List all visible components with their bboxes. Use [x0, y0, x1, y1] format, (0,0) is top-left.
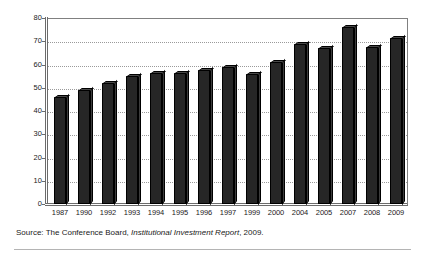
bar-side-face: [258, 71, 261, 205]
x-tick-label-2008: 2008: [360, 208, 384, 218]
bar-side-face: [306, 40, 309, 205]
bar-2008: [366, 18, 378, 204]
bar-body: [78, 90, 90, 204]
x-tick-label-2007: 2007: [336, 208, 360, 218]
source-report-title: Institutional Investment Report: [131, 228, 239, 237]
bar-1992: [102, 18, 114, 204]
bar-side-face: [210, 67, 213, 205]
x-tick-label-1987: 1987: [48, 208, 72, 218]
x-axis-labels: 1987199019921993199419951996199719992000…: [48, 208, 408, 220]
source-note: Source: The Conference Board, Institutio…: [16, 228, 264, 237]
y-tick-label-70: 70: [18, 37, 42, 45]
y-tick-label-0: 0: [18, 200, 42, 208]
bar-side-face: [186, 69, 189, 205]
bar-2000: [270, 18, 282, 204]
x-tick-label-1992: 1992: [96, 208, 120, 218]
y-tick-label-30: 30: [18, 130, 42, 138]
x-tick-label-1996: 1996: [192, 208, 216, 218]
bar-1999: [246, 18, 258, 204]
x-tick-label-2005: 2005: [312, 208, 336, 218]
bar-1996: [198, 18, 210, 204]
bar-body: [54, 97, 66, 204]
y-tick-label-40: 40: [18, 107, 42, 115]
bar-1997: [222, 18, 234, 204]
footer-divider: [14, 249, 411, 250]
bar-side-face: [330, 45, 333, 205]
bar-series: [48, 18, 408, 204]
bar-1995: [174, 18, 186, 204]
bar-side-face: [354, 24, 357, 205]
y-tick-label-60: 60: [18, 61, 42, 69]
x-tick-label-2009: 2009: [384, 208, 408, 218]
y-tick-label-10: 10: [18, 177, 42, 185]
bar-body: [318, 48, 330, 204]
bar-side-face: [234, 64, 237, 205]
bar-side-face: [282, 59, 285, 205]
bar-2007: [342, 18, 354, 204]
source-prefix: Source:: [16, 228, 44, 237]
bar-body: [366, 47, 378, 204]
bar-side-face: [402, 35, 405, 206]
y-axis-labels: 01020304050607080: [14, 0, 42, 256]
y-tick-label-20: 20: [18, 154, 42, 162]
bar-side-face: [114, 80, 117, 205]
bar-body: [246, 74, 258, 204]
bar-side-face: [138, 73, 141, 205]
bar-body: [126, 76, 138, 204]
x-tick-label-2000: 2000: [264, 208, 288, 218]
bar-body: [174, 73, 186, 204]
bar-body: [390, 38, 402, 204]
bar-body: [270, 62, 282, 204]
x-tick-label-2004: 2004: [288, 208, 312, 218]
bar-side-face: [378, 44, 381, 205]
bar-body: [102, 83, 114, 204]
bar-1993: [126, 18, 138, 204]
x-tick-label-1999: 1999: [240, 208, 264, 218]
bar-2009: [390, 18, 402, 204]
x-tick-label-1993: 1993: [120, 208, 144, 218]
y-tick-label-80: 80: [18, 14, 42, 22]
bar-1994: [150, 18, 162, 204]
bar-side-face: [90, 87, 93, 205]
chart-figure: 01020304050607080 1987199019921993199419…: [0, 0, 425, 256]
bar-1987: [54, 18, 66, 204]
bar-2004: [294, 18, 306, 204]
source-year: , 2009.: [239, 228, 263, 237]
x-tick-label-1994: 1994: [144, 208, 168, 218]
x-tick-label-1990: 1990: [72, 208, 96, 218]
source-publisher: The Conference Board,: [46, 228, 129, 237]
x-tick-label-1995: 1995: [168, 208, 192, 218]
bar-side-face: [162, 69, 165, 205]
bar-body: [150, 73, 162, 204]
bar-body: [198, 70, 210, 204]
bar-2005: [318, 18, 330, 204]
bar-body: [294, 44, 306, 204]
bar-body: [342, 27, 354, 204]
y-tick-label-50: 50: [18, 84, 42, 92]
bar-1990: [78, 18, 90, 204]
x-tick-label-1997: 1997: [216, 208, 240, 218]
bar-side-face: [66, 94, 69, 205]
bar-body: [222, 67, 234, 204]
